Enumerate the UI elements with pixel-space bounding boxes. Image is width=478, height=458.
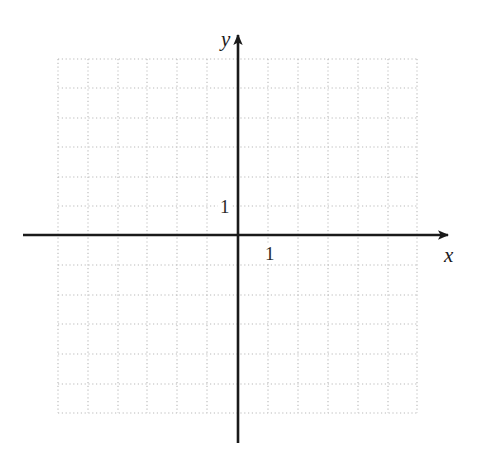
grid-canvas bbox=[0, 0, 478, 458]
x-axis-label: x bbox=[444, 245, 453, 266]
coordinate-grid-figure: y x 1 1 bbox=[0, 0, 478, 458]
y-axis-label: y bbox=[221, 29, 230, 50]
x-axis-unit-tick-label: 1 bbox=[263, 244, 277, 263]
y-axis-unit-tick-label: 1 bbox=[218, 197, 232, 216]
